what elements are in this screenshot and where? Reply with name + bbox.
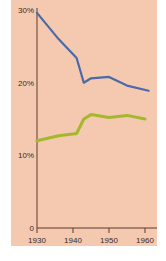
line-chart: 1930194019501960010%20%30% [11, 0, 157, 246]
x-tick-label: 1960 [136, 236, 154, 245]
y-tick-label: 0 [30, 224, 35, 233]
plot-background [11, 0, 157, 246]
y-tick-label: 20% [18, 79, 34, 88]
x-tick-label: 1940 [64, 236, 82, 245]
chart-panel: 1930194019501960010%20%30% [11, 0, 157, 246]
x-tick-label: 1950 [100, 236, 118, 245]
y-tick-label: 30% [18, 6, 34, 15]
x-tick-label: 1930 [28, 236, 46, 245]
y-tick-label: 10% [18, 151, 34, 160]
